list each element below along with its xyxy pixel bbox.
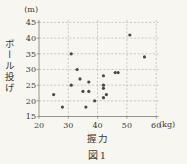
x-tick-label: 50 bbox=[122, 121, 132, 130]
data-point bbox=[87, 90, 90, 93]
x-tick-label: 20 bbox=[34, 121, 44, 130]
data-point bbox=[75, 68, 78, 71]
y-tick-label: 30 bbox=[26, 65, 36, 74]
y-tick-label: 35 bbox=[26, 50, 36, 59]
data-point bbox=[102, 84, 105, 87]
data-point bbox=[128, 33, 131, 36]
x-axis-title: 握力 bbox=[39, 131, 157, 145]
y-axis-title: ボール投げ bbox=[2, 39, 16, 103]
y-axis-unit-label: (m) bbox=[16, 5, 38, 14]
figure-caption: 図1 bbox=[39, 147, 157, 162]
y-tick-label: 25 bbox=[26, 81, 36, 90]
figure-1-scatter-chart: 152025303540452030405060 (m) ボール投げ (kg) … bbox=[0, 0, 187, 164]
data-point bbox=[70, 52, 73, 55]
y-tick-label: 45 bbox=[26, 18, 36, 27]
data-point bbox=[114, 71, 117, 74]
y-tick-label: 20 bbox=[26, 97, 36, 106]
data-point bbox=[84, 105, 87, 108]
data-point bbox=[61, 105, 64, 108]
data-point bbox=[143, 55, 146, 58]
data-point bbox=[102, 87, 105, 90]
data-point bbox=[93, 99, 96, 102]
data-point bbox=[102, 74, 105, 77]
data-point bbox=[102, 96, 105, 99]
data-point bbox=[52, 93, 55, 96]
x-axis-unit-label: (kg) bbox=[159, 120, 175, 129]
data-point bbox=[105, 93, 108, 96]
data-point bbox=[117, 71, 120, 74]
x-tick-label: 30 bbox=[63, 121, 73, 130]
x-tick-label: 40 bbox=[93, 121, 103, 130]
data-point bbox=[81, 90, 84, 93]
data-point bbox=[70, 84, 73, 87]
y-tick-label: 40 bbox=[26, 34, 36, 43]
data-point bbox=[78, 77, 81, 80]
data-point bbox=[87, 80, 90, 83]
